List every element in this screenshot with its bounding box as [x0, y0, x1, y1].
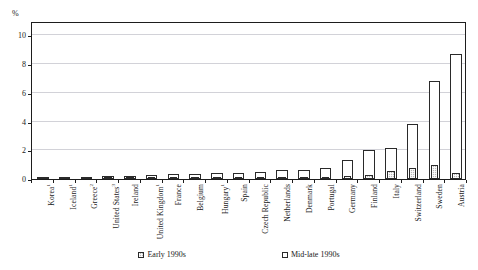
y-tick-label: 0 — [8, 176, 26, 184]
y-tick-label: 10 — [8, 32, 26, 40]
bar-early-1990s — [300, 177, 307, 179]
legend-item-early: Early 1990s — [138, 250, 185, 259]
y-tick-label: 4 — [8, 119, 26, 127]
bar-early-1990s — [278, 177, 285, 179]
bar-early-1990s — [126, 177, 133, 179]
x-axis-category-label: France — [175, 184, 183, 205]
bar-early-1990s — [83, 177, 90, 179]
x-tick-mark — [292, 180, 293, 183]
x-axis-category-label: United Kingdom1 — [154, 184, 164, 239]
x-axis-category-label: Italy — [393, 184, 401, 198]
x-tick-mark — [31, 180, 32, 183]
legend-item-late: Mid-late 1990s — [282, 250, 340, 259]
x-axis-category-label: Korea1 — [45, 184, 55, 206]
bar-early-1990s — [235, 177, 242, 179]
bar-early-1990s — [191, 177, 198, 179]
y-tick-mark — [28, 151, 31, 152]
x-tick-mark — [466, 180, 467, 183]
legend-swatch-early-icon — [138, 252, 144, 258]
x-axis-category-label: Switzerland — [415, 184, 423, 221]
x-tick-mark — [401, 180, 402, 183]
legend-label-early: Early 1990s — [147, 250, 185, 259]
y-tick-label: 8 — [8, 61, 26, 69]
x-axis-category-label: Spain — [241, 184, 249, 202]
x-tick-mark — [75, 180, 76, 183]
bar-early-1990s — [365, 175, 372, 179]
x-tick-mark — [227, 180, 228, 183]
x-axis-category-label: Netherlands — [284, 184, 292, 222]
x-axis-category-label: Germany — [349, 184, 357, 213]
x-tick-mark — [379, 180, 380, 183]
bar-early-1990s — [39, 177, 46, 179]
y-tick-label: 6 — [8, 90, 26, 98]
x-tick-mark — [96, 180, 97, 183]
y-tick-label: 2 — [8, 147, 26, 155]
x-tick-mark — [140, 180, 141, 183]
y-tick-mark — [28, 65, 31, 66]
plot-area — [31, 22, 466, 180]
y-tick-mark — [28, 123, 31, 124]
x-tick-mark — [53, 180, 54, 183]
x-tick-mark — [423, 180, 424, 183]
gridline — [32, 149, 465, 150]
y-axis-unit-label: % — [12, 10, 19, 18]
x-tick-mark — [270, 180, 271, 183]
bar-early-1990s — [104, 177, 111, 179]
bar-early-1990s — [409, 168, 416, 179]
y-tick-mark — [28, 94, 31, 95]
bar-early-1990s — [61, 177, 68, 179]
bar-early-1990s — [148, 177, 155, 179]
gridline — [32, 121, 465, 122]
x-tick-mark — [357, 180, 358, 183]
x-axis-category-label: Portugal — [328, 184, 336, 211]
bar-early-1990s — [452, 173, 459, 179]
gridline — [32, 92, 465, 93]
legend-label-late: Mid-late 1990s — [291, 250, 340, 259]
bar-early-1990s — [387, 171, 394, 179]
bar-mid-late-1990s — [450, 54, 461, 179]
x-axis-category-label: Austria — [458, 184, 466, 207]
x-axis-category-label: Hungary1 — [219, 184, 229, 214]
gridline — [32, 63, 465, 64]
x-tick-mark — [162, 180, 163, 183]
gridline — [32, 34, 465, 35]
x-tick-mark — [249, 180, 250, 183]
x-tick-mark — [336, 180, 337, 183]
x-tick-mark — [444, 180, 445, 183]
x-axis-category-label: United States3 — [110, 184, 120, 229]
bar-early-1990s — [213, 177, 220, 179]
x-axis-category-label: Denmark — [306, 184, 314, 213]
legend-swatch-late-icon — [282, 252, 288, 258]
bar-chart: % 0246810 Korea1Iceland1Greece2United St… — [0, 0, 478, 270]
x-tick-mark — [205, 180, 206, 183]
bar-early-1990s — [431, 165, 438, 179]
y-tick-mark — [28, 36, 31, 37]
bars-layer — [32, 23, 465, 179]
bar-early-1990s — [170, 177, 177, 179]
x-tick-mark — [118, 180, 119, 183]
bar-early-1990s — [322, 177, 329, 179]
x-axis-category-label: Ireland — [132, 184, 140, 206]
bar-early-1990s — [344, 176, 351, 179]
x-tick-mark — [314, 180, 315, 183]
x-axis-category-label: Czech Republic — [262, 184, 270, 234]
bar-early-1990s — [257, 177, 264, 179]
bar-mid-late-1990s — [429, 81, 440, 179]
x-axis-category-label: Finland — [371, 184, 379, 208]
x-tick-mark — [183, 180, 184, 183]
x-axis-category-label: Iceland1 — [67, 184, 77, 210]
x-axis-category-label: Belgium — [197, 184, 205, 211]
chart-legend: Early 1990s Mid-late 1990s — [0, 250, 478, 259]
x-axis-category-label: Greece2 — [88, 184, 98, 209]
x-axis-category-label: Sweden — [436, 184, 444, 209]
